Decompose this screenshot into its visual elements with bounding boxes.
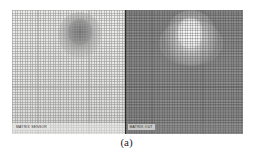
panel-label-matrix-out: MATRIX OUT [128,124,155,130]
panel-matrix-sensor: MATRIX SENSOR [12,10,125,134]
dot-matrix-overlay [12,10,125,134]
figure: MATRIX SENSOR MATRIX OUT (a) [0,0,253,157]
figure-caption: (a) [0,136,253,148]
panel-matrix-out: MATRIX OUT [125,10,243,134]
panel-label-matrix-sensor: MATRIX SENSOR [14,124,49,130]
dot-matrix-overlay [126,10,243,134]
two-panel-image: MATRIX SENSOR MATRIX OUT [12,10,243,134]
